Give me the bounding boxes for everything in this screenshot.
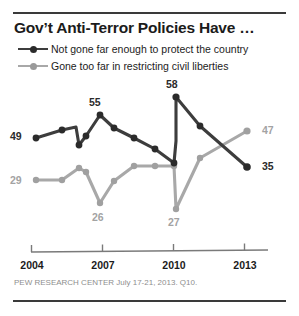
x-tick-label-2013: 2013 [225,259,265,271]
data-label-gray-start: 29 [10,174,22,186]
data-label-gray-low-26: 26 [92,211,104,223]
data-label-dark-start: 49 [10,130,22,142]
data-label-dark-peak-58: 58 [166,78,178,90]
x-tick-label-2004: 2004 [12,259,52,271]
x-tick-label-2007: 2007 [83,259,123,271]
x-axis [31,244,268,253]
source-note: PEW RESEARCH CENTER July 17-21, 2013. Q1… [14,278,197,287]
data-label-dark-end: 35 [262,160,274,172]
data-label-gray-low-27: 27 [168,216,180,228]
x-tick-label-2010: 2010 [154,259,194,271]
series-dark-markers [33,93,251,170]
bottom-divider [13,300,286,302]
data-label-dark-peak-55: 55 [89,96,101,108]
chart-card: Gov’t Anti-Terror Policies Have … Not go… [0,0,299,316]
series-dark-line [36,97,247,167]
series-not-gone-far-enough [33,93,251,170]
data-label-gray-end: 47 [262,124,274,136]
x-axis-line [31,250,268,252]
